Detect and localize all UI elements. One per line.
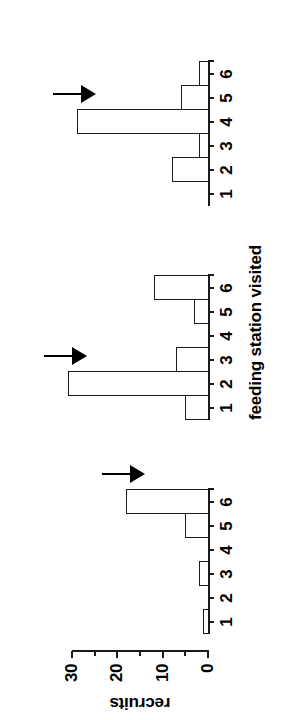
category-tick-label: 6 [217,65,237,83]
category-tick-label: 3 [217,137,237,155]
category-tick [208,145,214,147]
category-axis-end-tick [208,60,214,62]
category-tick-label: 4 [217,113,237,131]
category-tick [208,97,214,99]
category-tick-label: 2 [217,161,237,179]
bar-panel-c-station-2 [172,157,210,182]
page-rotation-wrapper: 0102030recruits123456123456123456feeding… [0,0,306,720]
category-tick [208,73,214,75]
figure-canvas: 0102030recruits123456123456123456feeding… [0,0,306,720]
category-tick [208,193,214,195]
arrow-head [81,85,96,103]
x-axis-title: feeding station visited [246,190,266,420]
category-tick-label: 1 [217,185,237,203]
arrow-annotation-panel-c [53,85,71,131]
category-tick [208,121,214,123]
arrow-shaft [53,93,85,95]
plot-area: 0102030recruits123456123456123456feeding… [0,0,306,720]
bar-panel-c-station-4 [77,109,210,134]
category-tick-label: 5 [217,89,237,107]
bar-panel-c-station-5 [181,85,210,110]
category-tick [208,169,214,171]
